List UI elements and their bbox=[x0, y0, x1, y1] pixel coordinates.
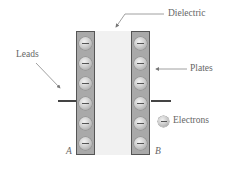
leads-label: Leads bbox=[16, 49, 39, 59]
plate-a-label: A bbox=[66, 146, 72, 156]
plate-b-label: B bbox=[155, 146, 161, 156]
electrons-label: Electrons bbox=[173, 115, 209, 125]
leads-arrow bbox=[36, 63, 60, 88]
dielectric-label: Dielectric bbox=[168, 8, 205, 18]
electron-icon bbox=[158, 116, 169, 127]
annotation-arrows bbox=[0, 0, 227, 172]
dielectric-arrow bbox=[116, 14, 164, 27]
plates-label: Plates bbox=[190, 63, 213, 73]
capacitor-diagram: Dielectric Leads Plates Electrons A B bbox=[0, 0, 227, 172]
